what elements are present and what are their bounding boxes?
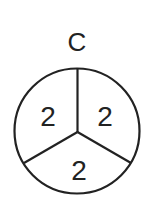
diagram-title: C bbox=[68, 27, 87, 57]
segment-value-top-right: 2 bbox=[97, 101, 113, 132]
circle-diagram: C 2 2 2 bbox=[0, 0, 149, 201]
segment-value-top-left: 2 bbox=[40, 101, 56, 132]
segment-value-bottom: 2 bbox=[71, 155, 87, 186]
divider-lower-left bbox=[24, 132, 78, 163]
